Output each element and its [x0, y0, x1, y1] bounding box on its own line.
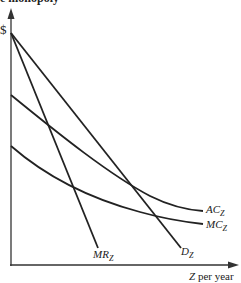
x-axis-arrow-icon [228, 262, 239, 269]
y-axis-label: $ [0, 22, 7, 38]
y-axis-arrow-icon [8, 8, 15, 19]
mr-line [11, 33, 98, 248]
chart-canvas [0, 0, 241, 283]
mr-label: MRZ [93, 248, 113, 263]
x-axis-label: Z per year [189, 270, 234, 282]
mc-curve [11, 146, 203, 224]
d-label: DZ [181, 245, 193, 260]
ac-label: ACZ [206, 203, 225, 218]
mc-label: MCZ [206, 218, 227, 233]
